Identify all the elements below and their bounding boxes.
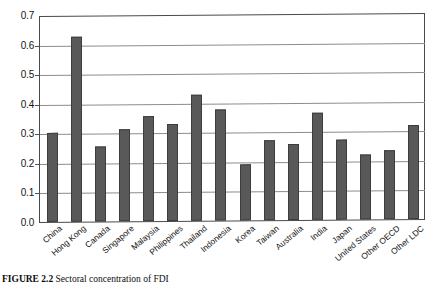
y-axis-tick-label: 0.0 (6, 218, 34, 228)
figure-caption: FIGURE 2.2 Sectoral concentration of FDI (2, 274, 432, 284)
y-axis-tick-label: 0.7 (6, 11, 34, 21)
y-axis-tick-mark (35, 134, 39, 135)
figure-caption-label: FIGURE 2.2 (2, 274, 53, 284)
bar (215, 110, 226, 221)
bar (240, 164, 251, 220)
y-axis-tick-label: 0.1 (6, 188, 34, 198)
bar (119, 130, 130, 222)
y-axis-tick-mark (35, 105, 39, 106)
bar (264, 140, 275, 220)
y-axis-tick-label: 0.5 (6, 70, 34, 80)
bar (408, 125, 419, 219)
y-axis-tick-labels: 0.70.60.50.40.30.20.10.0 (6, 0, 34, 232)
y-axis-tick-mark (35, 46, 39, 47)
x-axis-category-label: India (310, 224, 330, 243)
bar (312, 113, 323, 220)
bar (288, 144, 299, 220)
bar-series (40, 13, 425, 222)
bar (384, 151, 395, 220)
y-axis-tick-mark (35, 193, 39, 194)
bar (336, 139, 347, 220)
chart-plot-area (39, 13, 425, 223)
bar (143, 116, 154, 221)
y-axis-tick-mark (35, 75, 39, 76)
bar (47, 133, 58, 222)
figure-caption-text: Sectoral concentration of FDI (56, 274, 169, 284)
y-axis-tick-label: 0.4 (6, 100, 34, 110)
y-axis-tick-label: 0.3 (6, 129, 34, 139)
x-axis-category-labels: ChinaHong KongCanadaSingaporeMalaysiaPhi… (39, 224, 425, 276)
y-axis-tick-mark (35, 164, 39, 165)
bar (167, 124, 178, 221)
figure-container: 0.70.60.50.40.30.20.10.0 ChinaHong KongC… (0, 0, 432, 284)
chart-plot-wrapper: 0.70.60.50.40.30.20.10.0 ChinaHong KongC… (0, 0, 432, 232)
y-axis-tick-label: 0.2 (6, 159, 34, 169)
x-axis-category-label: Korea (234, 224, 257, 245)
bar (360, 154, 371, 219)
bar (95, 146, 106, 221)
bar (71, 37, 82, 222)
bar (191, 95, 202, 221)
y-axis-tick-label: 0.6 (6, 41, 34, 51)
